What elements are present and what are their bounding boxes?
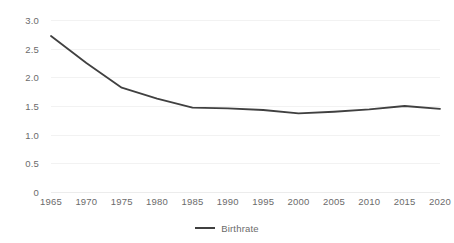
x-tick-label: 1995 — [252, 196, 274, 207]
x-tick-label: 2005 — [323, 196, 345, 207]
series-line-birthrate — [51, 36, 440, 113]
y-tick-label: 2.5 — [25, 43, 39, 54]
y-axis: 00.51.01.52.02.53.0 — [0, 20, 45, 192]
x-axis: 1965197019751980198519901995200020052010… — [51, 196, 440, 212]
y-tick-label: 0 — [34, 187, 39, 198]
x-tick-label: 1965 — [40, 196, 62, 207]
x-tick-label: 1970 — [75, 196, 97, 207]
legend-label: Birthrate — [221, 223, 259, 234]
series-layer — [51, 20, 440, 192]
legend-item-birthrate: Birthrate — [195, 223, 259, 234]
y-tick-label: 2.0 — [25, 72, 39, 83]
x-tick-label: 1985 — [181, 196, 203, 207]
x-tick-label: 2020 — [429, 196, 451, 207]
x-tick-label: 2010 — [358, 196, 380, 207]
chart-legend: Birthrate — [0, 219, 454, 237]
x-tick-label: 2015 — [394, 196, 416, 207]
x-tick-label: 1990 — [217, 196, 239, 207]
x-tick-label: 2000 — [288, 196, 310, 207]
y-tick-label: 3.0 — [25, 15, 39, 26]
gridline — [51, 192, 440, 193]
legend-line-swatch-icon — [195, 227, 215, 229]
y-tick-label: 1.5 — [25, 101, 39, 112]
x-tick-label: 1980 — [146, 196, 168, 207]
y-tick-label: 1.0 — [25, 129, 39, 140]
plot-area — [51, 20, 440, 192]
birthrate-line-chart: 00.51.01.52.02.53.0 19651970197519801985… — [0, 0, 454, 243]
y-tick-label: 0.5 — [25, 158, 39, 169]
x-tick-label: 1975 — [111, 196, 133, 207]
